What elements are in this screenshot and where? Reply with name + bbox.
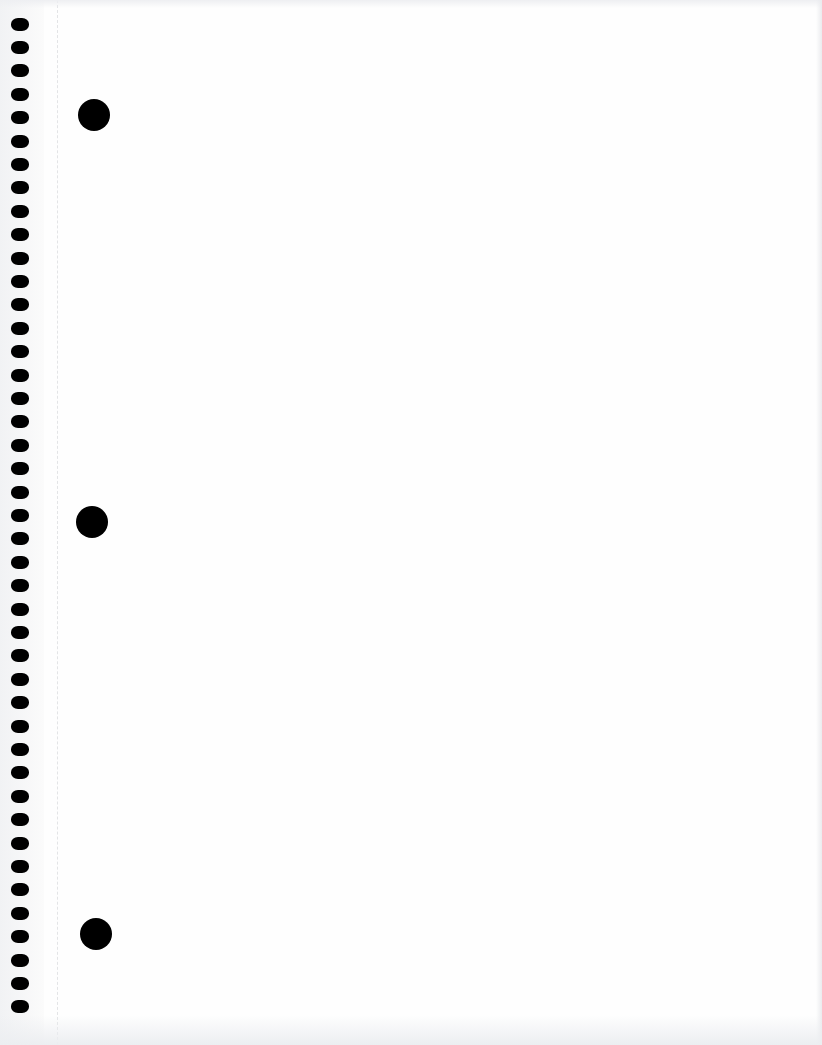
spiral-hole [11, 369, 29, 382]
scan-shadow-right [816, 0, 822, 1045]
spiral-hole [11, 907, 29, 920]
spiral-hole [11, 556, 29, 569]
spiral-hole [11, 298, 29, 311]
spiral-hole [11, 111, 29, 124]
spiral-hole [11, 41, 29, 54]
spiral-hole [11, 64, 29, 77]
spiral-hole [11, 766, 29, 779]
spiral-hole [11, 673, 29, 686]
spiral-hole [11, 486, 29, 499]
spiral-hole [11, 322, 29, 335]
spiral-hole [11, 205, 29, 218]
spiral-hole [11, 837, 29, 850]
spiral-hole [11, 720, 29, 733]
punch-hole-top [78, 99, 110, 131]
spiral-hole [11, 790, 29, 803]
spiral-hole [11, 626, 29, 639]
spiral-hole [11, 88, 29, 101]
spiral-hole [11, 439, 29, 452]
spiral-hole [11, 158, 29, 171]
spiral-hole [11, 392, 29, 405]
scan-shadow-bottom [0, 1015, 822, 1045]
spiral-hole [11, 813, 29, 826]
spiral-hole [11, 532, 29, 545]
spiral-hole [11, 696, 29, 709]
perforation-line [57, 0, 58, 1045]
notebook-page [0, 0, 822, 1045]
spiral-hole [11, 345, 29, 358]
spiral-hole [11, 930, 29, 943]
spiral-hole [11, 860, 29, 873]
spiral-hole [11, 977, 29, 990]
spiral-hole [11, 954, 29, 967]
scan-shadow-top [0, 0, 822, 8]
spiral-hole [11, 415, 29, 428]
punch-hole-middle [76, 506, 108, 538]
spiral-hole [11, 509, 29, 522]
spiral-hole [11, 1000, 29, 1013]
punch-hole-bottom [80, 918, 112, 950]
spiral-hole [11, 181, 29, 194]
spiral-hole [11, 252, 29, 265]
spiral-hole [11, 462, 29, 475]
spiral-hole [11, 649, 29, 662]
spiral-hole [11, 743, 29, 756]
spiral-hole [11, 18, 29, 31]
spiral-hole [11, 228, 29, 241]
spiral-hole [11, 579, 29, 592]
spiral-hole [11, 603, 29, 616]
spiral-hole [11, 883, 29, 896]
spiral-hole [11, 135, 29, 148]
spiral-hole [11, 275, 29, 288]
